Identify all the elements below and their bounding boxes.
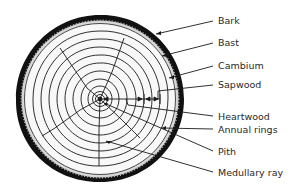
label-heartwood: Heartwood xyxy=(218,111,270,122)
leader-bark xyxy=(156,21,213,34)
label-medullary-ray: Medullary ray xyxy=(218,167,283,178)
leader-bast xyxy=(162,43,213,56)
label-cambium: Cambium xyxy=(218,60,264,71)
label-sapwood: Sapwood xyxy=(218,79,261,90)
label-pith: Pith xyxy=(218,146,236,157)
label-annual-rings: Annual rings xyxy=(218,124,278,135)
tree-cross-section-diagram xyxy=(0,0,302,190)
label-bast: Bast xyxy=(218,37,239,48)
label-bark: Bark xyxy=(218,15,240,26)
